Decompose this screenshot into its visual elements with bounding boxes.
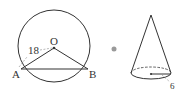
label-o: O	[50, 35, 58, 47]
radius-ob	[54, 48, 88, 69]
cone-base-back	[131, 67, 171, 73]
arrow-dot-icon	[112, 47, 117, 52]
diagram-canvas: O A B 18 6	[0, 0, 184, 96]
circle-figure: O A B 18	[12, 10, 96, 82]
cone-figure: 6	[131, 15, 175, 91]
label-radius: 18	[28, 44, 40, 56]
label-b: B	[89, 68, 96, 80]
cone-base-center	[150, 73, 152, 75]
label-a: A	[12, 68, 20, 80]
radius-label-leader	[40, 48, 52, 50]
cone-slant-left	[131, 15, 151, 73]
label-base-radius: 6	[170, 81, 175, 91]
center-point	[53, 47, 56, 50]
cone-slant-right	[151, 15, 171, 73]
